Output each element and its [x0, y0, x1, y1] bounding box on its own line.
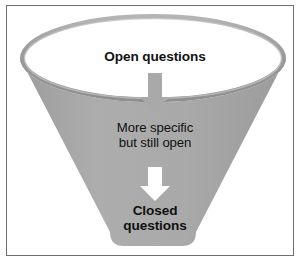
funnel-diagram: Open questions More specific but still o…	[0, 0, 306, 270]
label-closed-questions: Closed questions	[53, 203, 257, 233]
label-open-questions: Open questions	[53, 49, 257, 64]
label-more-specific: More specific but still open	[53, 121, 257, 151]
